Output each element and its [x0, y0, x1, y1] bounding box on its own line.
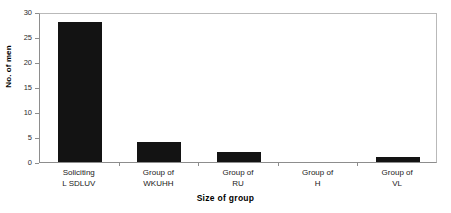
plot-area: [39, 13, 437, 163]
y-axis-tick-mark: [35, 88, 39, 89]
x-axis-tick-mark: [198, 162, 199, 166]
y-axis-tick-mark: [35, 13, 39, 14]
x-axis-category-label: Group of H: [278, 167, 358, 189]
y-axis-title: No. of men: [4, 32, 13, 102]
x-axis-category-label: Group of VL: [357, 167, 437, 189]
y-axis-tick-label: 30: [24, 8, 32, 17]
y-axis-tick-mark: [35, 38, 39, 39]
y-axis-tick-label: 10: [24, 108, 32, 117]
bar-3: [217, 152, 261, 162]
x-axis-title: Size of group: [0, 193, 451, 203]
bar-chart: No. of men Size of group 051015202530Sol…: [0, 0, 451, 213]
x-axis-tick-mark: [278, 162, 279, 166]
x-axis-category-label: Group of WKUHH: [119, 167, 199, 189]
x-axis-category-label: Group of RU: [198, 167, 278, 189]
y-axis-tick-mark: [35, 113, 39, 114]
y-axis-tick-label: 5: [28, 133, 32, 142]
bar-1: [58, 22, 102, 162]
bar-5: [376, 157, 420, 162]
x-axis-category-label: Soliciting L SDLUV: [39, 167, 119, 189]
x-axis-tick-mark: [119, 162, 120, 166]
y-axis-tick-label: 25: [24, 33, 32, 42]
y-axis-tick-label: 20: [24, 58, 32, 67]
y-axis-tick-label: 15: [24, 83, 32, 92]
y-axis-tick-mark: [35, 63, 39, 64]
y-axis-tick-mark: [35, 138, 39, 139]
y-axis-tick-label: 0: [28, 158, 32, 167]
y-axis-tick-mark: [35, 163, 39, 164]
x-axis-tick-mark: [357, 162, 358, 166]
bar-2: [137, 142, 181, 162]
